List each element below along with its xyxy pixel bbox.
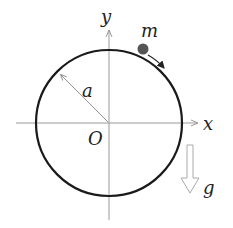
mass-ball: [138, 44, 149, 55]
origin-label: O: [88, 128, 103, 149]
gravity-label: g: [203, 177, 215, 198]
y-axis-label: y: [100, 6, 112, 27]
mass-label: m: [141, 20, 158, 41]
circle-motion-diagram: y x m a O g: [0, 0, 233, 228]
radius-label: a: [82, 80, 93, 101]
x-axis-label: x: [203, 113, 213, 134]
gravity-arrow-icon: [181, 145, 199, 193]
